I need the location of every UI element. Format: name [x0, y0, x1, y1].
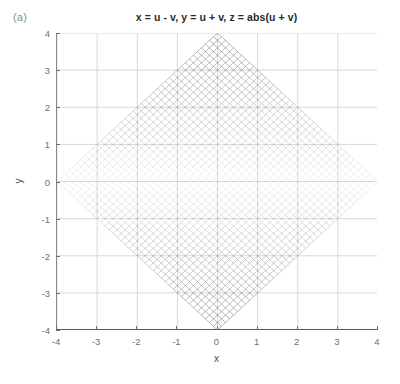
- x-tick-label: 0: [214, 336, 219, 347]
- y-tick-label: 3: [30, 65, 50, 76]
- x-tick-mark: [337, 326, 338, 330]
- y-tick-mark: [56, 144, 60, 145]
- y-tick-label: 2: [30, 102, 50, 113]
- x-tick-mark: [257, 326, 258, 330]
- x-tick-label: -1: [172, 336, 180, 347]
- x-tick-label: -3: [92, 336, 100, 347]
- x-tick-label: 2: [294, 336, 299, 347]
- x-tick-label: 4: [374, 336, 379, 347]
- x-tick-mark: [96, 326, 97, 330]
- tick-label-layer: 43210-1-2-3-4-4-3-2-101234: [0, 0, 400, 384]
- x-tick-mark: [377, 326, 378, 330]
- x-tick-label: -2: [132, 336, 140, 347]
- y-tick-label: 0: [30, 176, 50, 187]
- x-axis-label: x: [56, 353, 377, 364]
- x-tick-mark: [297, 326, 298, 330]
- y-tick-label: -4: [30, 325, 50, 336]
- y-tick-mark: [56, 256, 60, 257]
- x-tick-mark: [176, 326, 177, 330]
- x-tick-mark: [217, 326, 218, 330]
- x-tick-mark: [56, 326, 57, 330]
- y-tick-mark: [56, 182, 60, 183]
- y-tick-label: 1: [30, 139, 50, 150]
- x-tick-label: 3: [334, 336, 339, 347]
- y-tick-mark: [56, 293, 60, 294]
- y-tick-label: 4: [30, 28, 50, 39]
- y-axis-label: y: [13, 179, 24, 184]
- y-tick-mark: [56, 70, 60, 71]
- x-tick-label: 1: [254, 336, 259, 347]
- y-tick-label: -1: [30, 213, 50, 224]
- y-tick-mark: [56, 107, 60, 108]
- y-tick-label: -2: [30, 250, 50, 261]
- y-tick-mark: [56, 33, 60, 34]
- x-tick-mark: [136, 326, 137, 330]
- y-tick-mark: [56, 219, 60, 220]
- figure-panel: (a) x = u - v, y = u + v, z = abs(u + v)…: [0, 0, 400, 384]
- y-tick-mark: [56, 330, 60, 331]
- y-tick-label: -3: [30, 287, 50, 298]
- x-tick-label: -4: [52, 336, 60, 347]
